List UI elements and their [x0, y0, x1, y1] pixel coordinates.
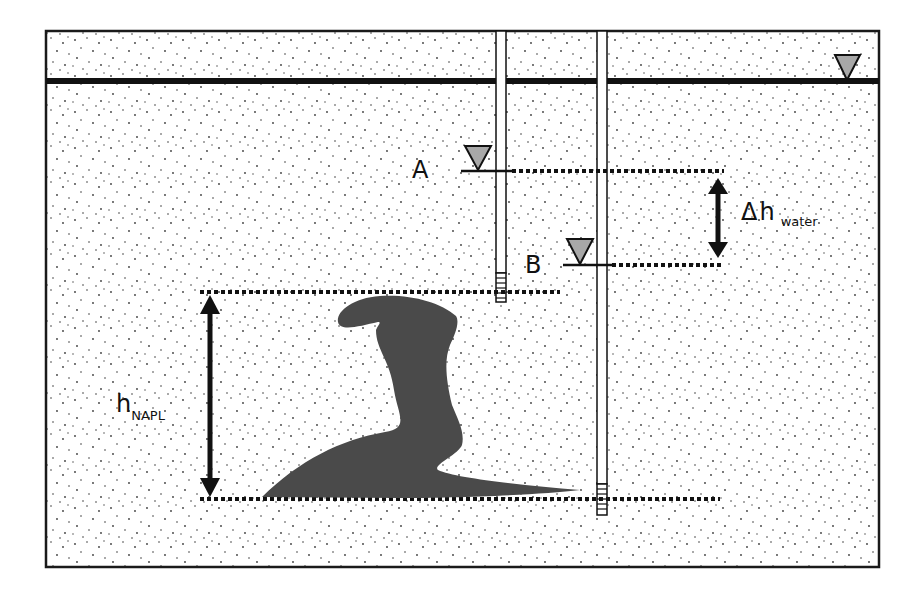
delta-h-water-label: Δhwater [741, 200, 818, 224]
well-a [496, 31, 506, 302]
delta-h-symbol: h [759, 198, 774, 226]
well-b [597, 31, 607, 515]
well-a-label: A [412, 158, 428, 182]
delta-symbol: Δ [741, 198, 757, 226]
h-napl-label: hNAPL [116, 392, 165, 416]
napl-head-diagram [0, 0, 922, 602]
well-b-label: B [525, 253, 541, 277]
delta-h-subscript: water [781, 214, 818, 229]
h-napl-subscript: NAPL [131, 408, 165, 423]
h-napl-symbol: h [116, 390, 131, 418]
